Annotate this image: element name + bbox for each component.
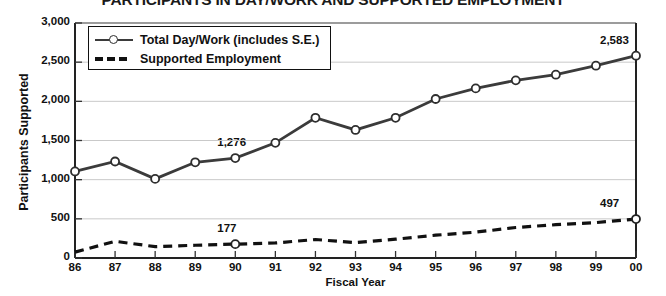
data-point-marker xyxy=(592,62,600,70)
data-point-marker xyxy=(311,114,319,122)
data-point-marker xyxy=(632,215,640,223)
chart-container: PARTICIPANTS IN DAY/WORK AND SUPPORTED E… xyxy=(0,0,666,296)
legend-item-supported-employment: Supported Employment xyxy=(95,49,324,68)
data-point-marker xyxy=(231,240,239,248)
data-point-marker xyxy=(151,175,159,183)
data-point-marker xyxy=(392,114,400,122)
data-point-marker xyxy=(632,52,640,60)
data-point-marker xyxy=(552,71,560,79)
data-point-marker xyxy=(352,126,360,134)
series-line-supported-employment xyxy=(75,219,636,252)
legend-item-total-day-work: Total Day/Work (includes S.E.) xyxy=(95,30,324,49)
data-point-marker xyxy=(472,84,480,92)
data-point-marker xyxy=(71,167,79,175)
data-point-marker xyxy=(432,95,440,103)
legend-dashed-line-icon xyxy=(95,53,133,65)
data-point-marker xyxy=(191,158,199,166)
data-point-marker xyxy=(512,76,520,84)
legend-line-marker-icon xyxy=(95,34,133,46)
data-point-marker xyxy=(111,157,119,165)
legend-label-total-day-work: Total Day/Work (includes S.E.) xyxy=(140,33,319,47)
legend-label-supported-employment: Supported Employment xyxy=(140,52,281,66)
chart-legend: Total Day/Work (includes S.E.) Supported… xyxy=(88,26,331,70)
data-point-marker xyxy=(231,154,239,162)
data-point-marker xyxy=(271,139,279,147)
